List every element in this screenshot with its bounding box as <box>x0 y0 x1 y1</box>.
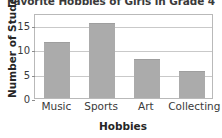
y-axis-label: Number of Students <box>6 2 18 98</box>
y-tick-label: 5 <box>24 71 30 81</box>
y-tick-mark <box>32 27 35 28</box>
y-tick-label: 0 <box>24 95 30 105</box>
x-tick-label-art: Art <box>124 101 169 112</box>
bar-music <box>44 42 70 98</box>
bar-sports <box>89 23 115 98</box>
y-tick-label: 10 <box>17 46 30 56</box>
x-tick-label-collecting: Collecting <box>168 101 213 112</box>
x-axis-label: Hobbies <box>30 120 216 132</box>
x-tick-label-sports: Sports <box>79 101 124 112</box>
x-tick-label-music: Music <box>34 101 79 112</box>
plot-area: 051015 <box>34 14 213 99</box>
y-tick-mark <box>32 76 35 77</box>
y-tick-label: 15 <box>17 22 30 32</box>
bar-chart-figure: Favorite Hobbies of Girls in Grade 4 Num… <box>0 0 222 138</box>
y-gridline <box>35 27 212 28</box>
y-tick-mark <box>32 51 35 52</box>
bar-collecting <box>179 71 205 98</box>
chart-title: Favorite Hobbies of Girls in Grade 4 <box>0 0 222 7</box>
bar-art <box>134 59 160 98</box>
